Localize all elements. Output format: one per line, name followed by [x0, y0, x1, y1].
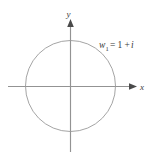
y-axis-label: y	[66, 9, 71, 19]
complex-number-annotation: w1=1+i	[99, 40, 134, 52]
annotation-imaginary-unit: i	[131, 40, 134, 50]
complex-plane-figure: y x w1=1+i	[0, 0, 159, 157]
annotation-plus: +	[124, 40, 132, 50]
figure-canvas: y x	[0, 0, 159, 157]
y-axis-arrow-icon	[67, 19, 74, 27]
annotation-equals: =	[109, 40, 117, 50]
x-axis-arrow-icon	[129, 83, 137, 90]
x-axis-label: x	[139, 82, 144, 92]
annotation-real-part: 1	[117, 40, 124, 50]
